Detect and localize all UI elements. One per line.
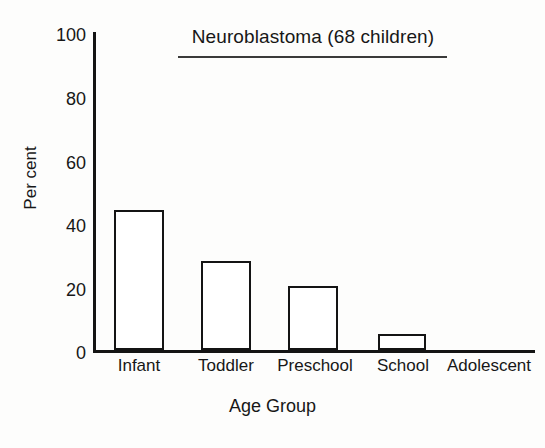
- y-axis-title: Per cent: [21, 133, 41, 223]
- bar-chart-figure: Neuroblastoma (68 children) 100806040200…: [0, 0, 545, 448]
- title-underline-rule: [178, 56, 447, 58]
- y-tick-label: 100: [24, 26, 86, 44]
- x-axis-title: Age Group: [0, 396, 545, 417]
- y-tick-label: 80: [24, 90, 86, 108]
- chart-title: Neuroblastoma (68 children): [178, 26, 448, 48]
- bar-school: [378, 334, 426, 350]
- bar-toddler: [201, 261, 251, 350]
- x-axis-line: [93, 350, 535, 353]
- y-tick-label: 0: [24, 344, 86, 362]
- y-tick-label: 20: [24, 281, 86, 299]
- bar-preschool: [288, 286, 338, 350]
- x-tick-label-adolescent: Adolescent: [429, 356, 545, 376]
- y-axis-line: [93, 32, 96, 352]
- bar-infant: [114, 210, 164, 350]
